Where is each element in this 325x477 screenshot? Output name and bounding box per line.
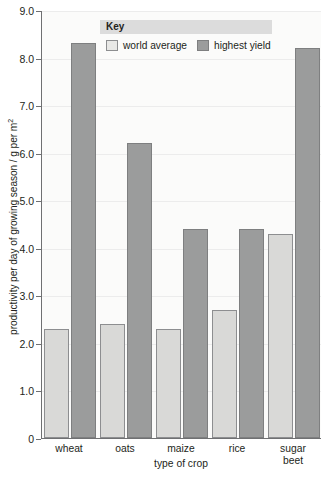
y-axis-tick-label: 0 [8,434,34,444]
bar-wheat-world-average [44,329,69,438]
bars-layer [42,11,321,438]
y-axis-tick-label: 8.0 [8,54,34,64]
y-axis-tick-mark [36,11,41,12]
y-axis-tick-mark [36,391,41,392]
legend-label-world-average: world average [123,40,187,51]
bar-rice-highest-yield [239,229,264,438]
legend-items: world average highest yield [100,40,272,51]
y-axis-tick-mark [36,296,41,297]
x-axis-tick-label-line: oats [97,443,153,455]
y-axis-tick-mark [36,201,41,202]
y-axis-tick-mark [36,59,41,60]
legend-item-world-average: world average [106,40,187,51]
bar-oats-world-average [100,324,125,438]
x-axis-tick-label-line: maize [153,443,209,455]
x-axis-title: type of crop [41,458,321,469]
bar-oats-highest-yield [127,143,152,438]
y-axis-tick-labels: 01.02.03.04.05.06.07.08.09.0 [4,0,34,477]
y-axis-tick-mark [36,344,41,345]
legend-swatch-world-average [106,40,118,51]
y-axis-tick-label: 2.0 [8,339,34,349]
bar-rice-world-average [212,310,237,438]
y-axis-tick-label: 7.0 [8,101,34,111]
x-axis-tick-label: maize [153,443,209,455]
x-axis-tick-label: wheat [41,443,97,455]
y-axis-tick-mark [36,106,41,107]
legend-item-highest-yield: highest yield [197,40,271,51]
y-axis-tick-mark [36,439,41,440]
bar-wheat-highest-yield [71,43,96,438]
plot-area [41,11,321,439]
x-axis-tick-label: oats [97,443,153,455]
y-axis-tick-label: 4.0 [8,244,34,254]
x-axis-tick-label-line: wheat [41,443,97,455]
bar-sugar-beet-highest-yield [295,48,320,438]
y-axis-tick-label: 9.0 [8,6,34,16]
y-axis-tick-label: 3.0 [8,291,34,301]
y-axis-tick-label: 6.0 [8,149,34,159]
x-axis-tick-label-line: sugar [265,443,321,455]
bar-sugar-beet-world-average [268,234,293,438]
y-axis-tick-mark [36,249,41,250]
bar-maize-highest-yield [183,229,208,438]
legend-label-highest-yield: highest yield [214,40,271,51]
legend: Key world average highest yield [100,20,272,51]
legend-swatch-highest-yield [197,40,209,51]
bar-maize-world-average [156,329,181,438]
y-axis-tick-label: 1.0 [8,386,34,396]
y-axis-tick-label: 5.0 [8,196,34,206]
legend-header: Key [100,20,272,34]
bar-chart: productivity per day of growing season /… [0,0,325,477]
x-axis-tick-label-line: rice [209,443,265,455]
x-axis-tick-label: rice [209,443,265,455]
y-axis-tick-mark [36,154,41,155]
